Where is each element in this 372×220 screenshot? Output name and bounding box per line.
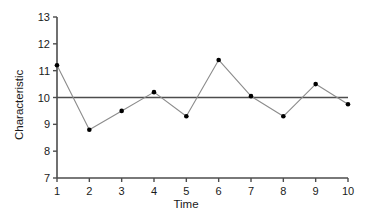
data-point-marker	[346, 102, 351, 107]
x-tick-label: 4	[151, 186, 157, 197]
data-point-marker	[87, 127, 92, 132]
data-point-marker	[119, 109, 124, 114]
data-point-marker	[216, 58, 221, 63]
y-tick-label: 13	[28, 12, 50, 23]
axes-group	[53, 17, 348, 182]
data-series-line	[57, 60, 348, 130]
y-axis-title: Characteristic	[14, 70, 26, 140]
x-tick-label: 5	[183, 186, 189, 197]
x-tick-label: 7	[248, 186, 254, 197]
y-tick-label: 7	[28, 173, 50, 184]
data-point-marker	[313, 82, 318, 87]
x-tick-label: 9	[313, 186, 319, 197]
y-tick-label: 12	[28, 38, 50, 49]
x-tick-label: 8	[280, 186, 286, 197]
run-chart: 78910111213 12345678910 Time Characteris…	[0, 0, 372, 220]
x-tick-label: 1	[54, 186, 60, 197]
data-point-marker	[184, 114, 189, 119]
x-tick-label: 2	[86, 186, 92, 197]
data-point-marker	[249, 94, 254, 99]
y-tick-label: 11	[28, 65, 50, 76]
y-tick-label: 10	[28, 92, 50, 103]
y-tick-label: 8	[28, 146, 50, 157]
data-point-markers	[55, 58, 351, 132]
data-point-marker	[55, 63, 60, 68]
x-tick-label: 3	[119, 186, 125, 197]
x-axis-title: Time	[0, 199, 372, 211]
x-tick-label: 10	[342, 186, 354, 197]
x-tick-label: 6	[216, 186, 222, 197]
data-point-marker	[152, 90, 157, 95]
data-point-marker	[281, 114, 286, 119]
y-tick-label: 9	[28, 119, 50, 130]
